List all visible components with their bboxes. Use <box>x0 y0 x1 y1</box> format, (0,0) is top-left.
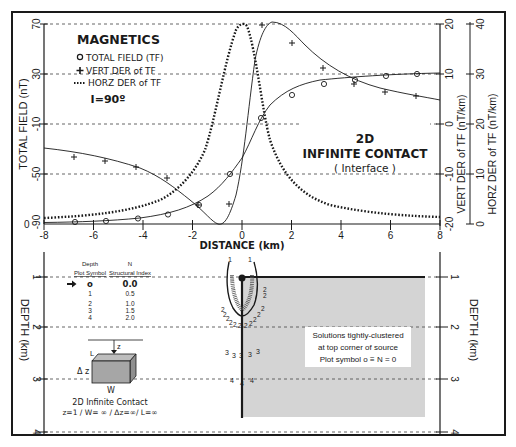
svg-text:z=1 / W= ∞ / Δz=∞/ L=∞: z=1 / W= ∞ / Δz=∞/ L=∞ <box>62 408 157 417</box>
svg-text:0: 0 <box>444 121 455 127</box>
selected-row-arrow-icon <box>67 281 77 288</box>
svg-text:1: 1 <box>88 290 92 297</box>
svg-text:3: 3 <box>232 352 236 359</box>
svg-text:4: 4 <box>250 377 254 384</box>
svg-text:2D: 2D <box>356 132 374 146</box>
svg-text:( Interface ): ( Interface ) <box>334 162 396 174</box>
svg-text:1: 1 <box>228 256 232 263</box>
svg-text:3: 3 <box>239 352 243 359</box>
svg-text:30: 30 <box>475 68 486 80</box>
left-tick-labels: 70 30 -10 -50 -90 <box>31 18 42 229</box>
svg-text:HORZ DER of TF: HORZ DER of TF <box>88 78 161 88</box>
svg-text:1: 1 <box>449 274 460 280</box>
depth-tick-labels-right: 1 2 3 4 <box>449 274 460 435</box>
svg-text:at top corner of source: at top corner of source <box>318 343 399 352</box>
svg-text:-90: -90 <box>31 214 42 229</box>
svg-text:2: 2 <box>261 305 265 312</box>
solution-n0-point <box>239 275 246 282</box>
svg-text:1.5: 1.5 <box>125 307 134 314</box>
right1-tick-labels: 20 10 0 -10 -20 <box>444 18 455 231</box>
circle-marker-icon <box>77 54 82 59</box>
svg-text:-20: -20 <box>444 216 455 231</box>
svg-text:-2: -2 <box>188 230 197 241</box>
svg-text:3: 3 <box>225 349 229 356</box>
svg-text:20: 20 <box>444 18 455 30</box>
depth-tick-labels-left: 1 2 3 4 <box>31 274 42 435</box>
svg-text:0.5: 0.5 <box>125 290 134 297</box>
svg-text:1: 1 <box>31 274 42 280</box>
svg-text:-10: -10 <box>31 116 42 131</box>
svg-text:z: z <box>117 342 121 351</box>
svg-text:4: 4 <box>31 429 42 435</box>
left-zero-label: 0 <box>24 219 30 230</box>
svg-text:Plot symbol o ≡ N = 0: Plot symbol o ≡ N = 0 <box>320 355 397 364</box>
svg-text:2: 2 <box>449 324 460 330</box>
svg-text:4: 4 <box>88 314 92 321</box>
svg-text:o: o <box>87 279 93 289</box>
svg-text:4: 4 <box>240 380 244 387</box>
top-plot: -8 -6 -4 -2 0 2 4 6 8 DISTANCE (km) 70 3… <box>17 18 498 251</box>
svg-text:10: 10 <box>444 68 455 80</box>
svg-text:3: 3 <box>248 351 252 358</box>
legend: MAGNETICS TOTAL FIELD (TF) VERT DER of T… <box>74 32 163 106</box>
legend-title: MAGNETICS <box>77 32 160 47</box>
svg-text:10: 10 <box>475 168 486 180</box>
figure-canvas: -8 -6 -4 -2 0 2 4 6 8 DISTANCE (km) 70 3… <box>0 0 516 447</box>
svg-text:3: 3 <box>256 348 260 355</box>
svg-text:2.0: 2.0 <box>125 314 134 321</box>
vert-der-markers <box>71 22 419 208</box>
svg-text:2D Infinite Contact: 2D Infinite Contact <box>72 398 147 407</box>
svg-text:8: 8 <box>437 230 443 241</box>
svg-text:Depth: Depth <box>82 261 98 267</box>
svg-text:2: 2 <box>238 322 242 329</box>
depth-axis-label-left: DEPTH (km) <box>19 299 31 361</box>
inclination-label: I=90º <box>91 93 126 106</box>
right2-tick-labels: 40 30 20 10 0 <box>475 18 486 227</box>
svg-text:-8: -8 <box>40 230 49 241</box>
left-axis-label: TOTAL FIELD (nT) <box>17 78 29 169</box>
svg-text:Δ z: Δ z <box>77 367 89 376</box>
svg-text:6: 6 <box>388 230 394 241</box>
svg-text:4: 4 <box>338 230 344 241</box>
svg-text:3: 3 <box>449 376 460 382</box>
x-axis-label: DISTANCE (km) <box>199 240 284 251</box>
svg-text:-10: -10 <box>444 166 455 181</box>
svg-text:W: W <box>107 386 115 395</box>
svg-text:2: 2 <box>233 321 237 328</box>
svg-text:Solutions tightly-clustered: Solutions tightly-clustered <box>312 331 403 340</box>
svg-text:20: 20 <box>475 118 486 130</box>
svg-text:-6: -6 <box>89 230 98 241</box>
svg-text:2: 2 <box>31 324 42 330</box>
svg-text:3: 3 <box>31 376 42 382</box>
svg-text:L: L <box>90 349 94 358</box>
svg-text:3: 3 <box>88 307 92 314</box>
svg-text:N: N <box>128 261 132 267</box>
svg-text:4: 4 <box>230 377 234 384</box>
svg-text:70: 70 <box>31 18 42 30</box>
svg-text:1: 1 <box>248 256 252 263</box>
depth-axis-label-right: DEPTH (km) <box>468 299 480 361</box>
svg-text:-4: -4 <box>139 230 148 241</box>
svg-text:TOTAL FIELD (TF): TOTAL FIELD (TF) <box>85 53 163 63</box>
svg-text:0.0: 0.0 <box>122 279 137 289</box>
plus-marker-icon <box>77 67 84 74</box>
euler-legend: Depth Plot Symbol N Structural Index o 0… <box>67 261 151 321</box>
svg-text:2: 2 <box>244 322 248 329</box>
depth-plot: 1 2 3 4 1 2 3 4 DEPTH (km) DEPTH (km) De… <box>19 252 480 435</box>
svg-text:VERT DER of TF: VERT DER of TF <box>86 66 156 76</box>
svg-text:2: 2 <box>257 311 261 318</box>
svg-text:40: 40 <box>475 18 486 30</box>
svg-text:4: 4 <box>449 429 460 435</box>
right1-axis-label: VERT DER of TF (nT/km) <box>455 94 467 213</box>
solutions-note: Solutions tightly-clustered at top corne… <box>305 327 411 367</box>
model-annotation: 2D INFINITE CONTACT ( Interface ) <box>300 118 430 174</box>
svg-text:0: 0 <box>475 221 486 227</box>
svg-text:Plot Symbol: Plot Symbol <box>74 270 106 276</box>
svg-text:2: 2 <box>88 300 92 307</box>
svg-text:2: 2 <box>263 292 267 299</box>
svg-text:Structural Index: Structural Index <box>109 270 151 276</box>
model-block-diagram: z L Δ z W 2D Infinite Contact z=1 / W= ∞… <box>62 340 157 417</box>
right2-axis-label: HORZ DER of TF (nT/km) <box>486 93 498 214</box>
svg-text:1.0: 1.0 <box>125 300 134 307</box>
svg-text:30: 30 <box>31 68 42 80</box>
